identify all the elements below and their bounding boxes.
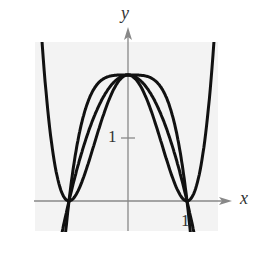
plot-background bbox=[35, 42, 218, 231]
plot-area bbox=[0, 0, 267, 254]
y-tick-label: 1 bbox=[108, 127, 117, 147]
x-axis-label: x bbox=[240, 188, 248, 209]
y-axis-label: y bbox=[121, 3, 129, 24]
x-tick-label: 1 bbox=[181, 211, 190, 231]
chart: y x 1 1 bbox=[0, 0, 267, 254]
